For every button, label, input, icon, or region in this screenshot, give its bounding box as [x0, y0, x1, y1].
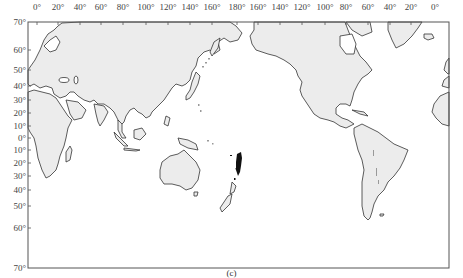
lon-label: 160° — [249, 3, 266, 12]
lat-label: 10° — [13, 146, 26, 155]
lat-label: 40° — [13, 186, 26, 195]
lat-label: 20° — [13, 109, 26, 118]
lon-label: 60° — [362, 3, 375, 12]
lon-label: 40° — [74, 3, 87, 12]
lon-label: 180° — [228, 3, 245, 12]
lat-label: 10° — [13, 122, 26, 131]
africa-landmass-east-edge — [432, 92, 449, 126]
madagascar — [66, 146, 72, 162]
lon-label: 100° — [137, 3, 154, 12]
new-zealand — [230, 182, 236, 194]
lon-label: 0° — [33, 3, 41, 12]
lon-label: 0° — [431, 3, 439, 12]
lon-label: 160° — [203, 3, 220, 12]
lon-label: 100° — [316, 3, 333, 12]
lon-label: 140° — [271, 3, 288, 12]
south-america-landmass — [354, 124, 408, 220]
lon-label: 60° — [95, 3, 108, 12]
lat-label: 50° — [13, 66, 26, 75]
lon-label: 120° — [159, 3, 176, 12]
lat-label: 60° — [13, 46, 26, 55]
figure-caption: (c) — [0, 268, 463, 278]
lat-label: 70° — [13, 18, 26, 27]
lat-label: 20° — [13, 159, 26, 168]
lat-label: 50° — [13, 202, 26, 211]
lon-label: 80° — [117, 3, 130, 12]
lon-label: 20° — [52, 3, 65, 12]
tonga-kermadec-cluster — [236, 152, 242, 176]
lat-label: 40° — [13, 82, 26, 91]
lat-label: 0° — [18, 134, 26, 143]
lon-label: 80° — [340, 3, 353, 12]
lat-label: 30° — [13, 172, 26, 181]
lat-label: 60° — [13, 224, 26, 233]
lon-label: 120° — [293, 3, 310, 12]
greenland — [388, 22, 422, 48]
lon-label: 140° — [181, 3, 198, 12]
world-map — [0, 0, 463, 278]
australia-landmass — [160, 150, 200, 190]
lon-label: 20° — [405, 3, 418, 12]
africa-landmass — [28, 90, 72, 178]
lat-label: 30° — [13, 96, 26, 105]
lon-label: 40° — [384, 3, 397, 12]
